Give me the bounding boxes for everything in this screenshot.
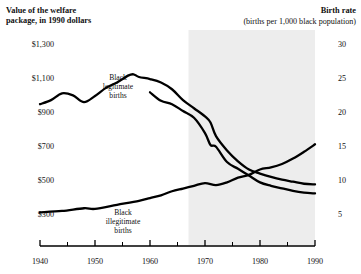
chart-plot-area [0,0,361,274]
chart-container: Value of the welfare package, in 1990 do… [0,0,361,274]
